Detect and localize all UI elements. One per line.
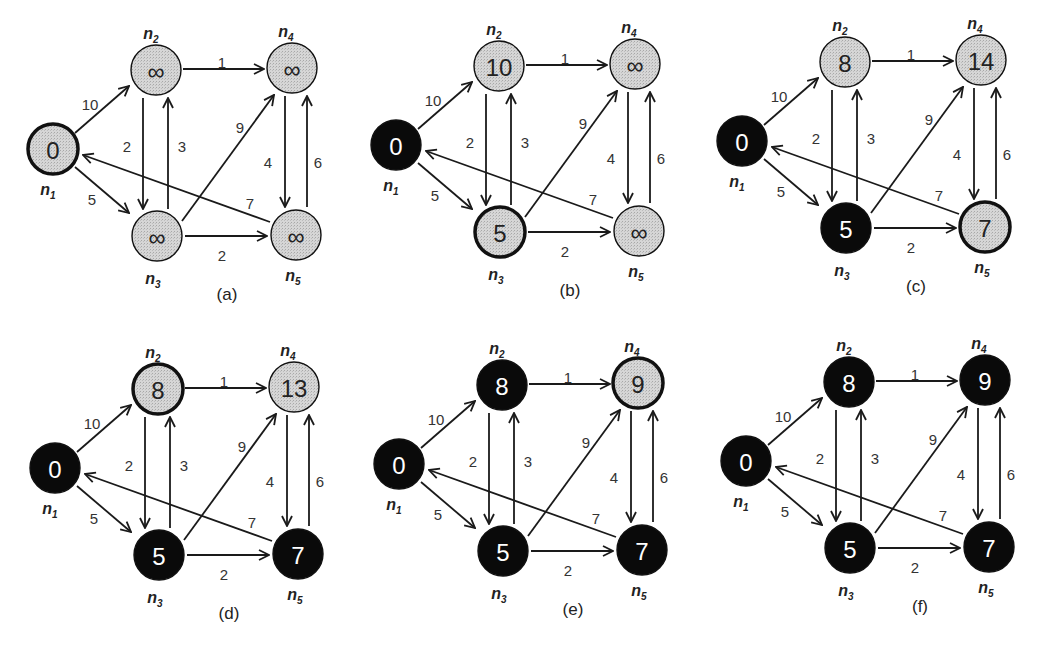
edge-weight-n5-n4: 6: [657, 150, 665, 167]
node-value-n5: ∞: [287, 223, 304, 250]
node-value-n1: 0: [46, 137, 59, 164]
node-value-n4: 9: [978, 368, 991, 395]
edge-n3-n4: [182, 95, 274, 221]
node-n3: ∞n3: [132, 211, 182, 290]
node-value-n4: 14: [968, 48, 995, 75]
edge-n1-n3: [768, 479, 822, 525]
node-value-n3: 5: [843, 536, 856, 563]
node-n5: 7n5: [617, 525, 667, 602]
edge-weight-n3-n4: 9: [238, 438, 246, 455]
node-value-n3: ∞: [148, 224, 165, 251]
node-label-n5: n5: [287, 586, 303, 606]
node-value-n4: ∞: [626, 52, 643, 79]
edge-weight-n4-n5: 4: [610, 469, 618, 486]
node-value-n1: 0: [48, 456, 61, 483]
edge-n1-n3: [418, 163, 472, 209]
edge-weight-n3-n5: 2: [564, 562, 572, 579]
edge-weight-n3-n2: 3: [180, 457, 188, 474]
node-label-n4: n4: [967, 15, 983, 35]
node-value-n5: 7: [291, 542, 304, 569]
edge-n5-n1: [426, 151, 613, 218]
edge-weight-n5-n4: 6: [1007, 466, 1015, 483]
node-value-n5: 7: [635, 538, 648, 565]
node-n5: 7n5: [273, 529, 323, 606]
node-value-n2: 8: [842, 370, 855, 397]
node-n5: ∞n5: [614, 206, 664, 283]
node-n1: 0n1: [371, 120, 421, 197]
node-n1: 0n1: [721, 436, 771, 513]
panel-c: 105123924670n18n25n314n47n5(c): [717, 15, 1011, 296]
edge-weight-n3-n4: 9: [925, 111, 933, 128]
node-value-n1: 0: [392, 452, 405, 479]
node-value-n3: 5: [493, 220, 506, 247]
edge-weight-n1-n2: 10: [428, 411, 445, 428]
edge-weight-n2-n3: 2: [816, 450, 824, 467]
edge-n3-n4: [528, 410, 620, 536]
node-label-n3: n3: [488, 266, 504, 286]
node-n1: 0n1: [28, 124, 78, 201]
node-n3: 5n3: [134, 530, 184, 609]
node-n4: ∞n4: [267, 23, 317, 93]
edge-weight-n1-n2: 10: [771, 88, 788, 105]
node-n4: 13n4: [269, 342, 319, 412]
node-n5: ∞n5: [271, 210, 321, 287]
edge-weight-n5-n1: 7: [939, 507, 947, 524]
edge-weight-n5-n1: 7: [592, 510, 600, 527]
node-label-n1: n1: [42, 500, 58, 520]
edge-weight-n3-n2: 3: [178, 138, 186, 155]
node-value-n2: 8: [151, 377, 164, 404]
node-n2: 10n2: [474, 21, 524, 91]
node-n3: 5n3: [821, 203, 871, 282]
panel-caption: (e): [563, 600, 584, 619]
edge-weight-n4-n5: 4: [264, 154, 272, 171]
node-label-n1: n1: [733, 493, 749, 513]
node-value-n2: 8: [495, 373, 508, 400]
node-label-n4: n4: [280, 342, 296, 362]
node-value-n3: 5: [839, 216, 852, 243]
node-value-n1: 0: [389, 133, 402, 160]
node-value-n4: 9: [631, 371, 644, 398]
edge-weight-n1-n2: 10: [425, 92, 442, 109]
edge-n1-n3: [764, 159, 818, 205]
node-label-n5: n5: [974, 259, 990, 279]
panel-caption: (c): [906, 277, 926, 296]
edge-weight-n2-n3: 2: [812, 130, 820, 147]
edge-weight-n1-n2: 10: [84, 415, 101, 432]
node-n1: 0n1: [30, 443, 80, 520]
edge-weight-n4-n5: 4: [266, 473, 274, 490]
node-n3: 5n3: [825, 523, 875, 602]
node-label-n1: n1: [383, 177, 399, 197]
node-n4: 9n4: [960, 335, 1010, 405]
edge-weight-n2-n4: 1: [564, 369, 572, 386]
edge-weight-n3-n5: 2: [907, 239, 915, 256]
node-n3: 5n3: [475, 207, 525, 286]
node-value-n2: ∞: [147, 58, 164, 85]
node-n2: 8n2: [824, 337, 874, 407]
edge-n1-n3: [75, 167, 129, 213]
node-value-n4: ∞: [283, 56, 300, 83]
edge-weight-n3-n2: 3: [524, 453, 532, 470]
panel-f: 105123924670n18n25n39n47n5(f): [721, 335, 1015, 616]
node-n3: 5n3: [478, 526, 528, 605]
node-value-n5: ∞: [630, 219, 647, 246]
edge-weight-n1-n2: 10: [775, 408, 792, 425]
node-label-n2: n2: [489, 340, 505, 360]
panel-b: 105123924670n110n25n3∞n4∞n5(b): [371, 19, 665, 300]
edge-n5-n1: [83, 155, 270, 222]
edge-weight-n5-n1: 7: [248, 514, 256, 531]
edge-weight-n5-n4: 6: [316, 473, 324, 490]
edge-weight-n3-n4: 9: [582, 434, 590, 451]
node-n4: ∞n4: [610, 19, 660, 89]
node-label-n3: n3: [147, 589, 163, 609]
node-label-n2: n2: [836, 337, 852, 357]
panel-caption: (f): [912, 597, 928, 616]
node-label-n5: n5: [978, 579, 994, 599]
edge-weight-n4-n5: 4: [953, 146, 961, 163]
node-label-n4: n4: [621, 19, 637, 39]
edge-weight-n1-n3: 5: [88, 191, 96, 208]
edge-weight-n5-n1: 7: [589, 191, 597, 208]
node-label-n2: n2: [832, 17, 848, 37]
node-value-n5: 7: [982, 535, 995, 562]
edge-weight-n2-n3: 2: [466, 134, 474, 151]
node-n1: 0n1: [717, 116, 767, 193]
